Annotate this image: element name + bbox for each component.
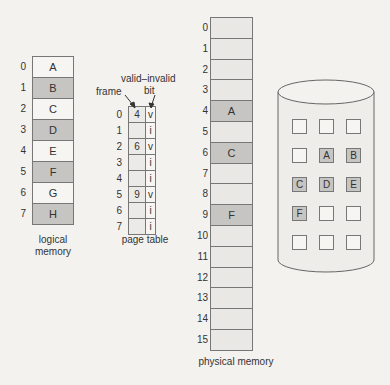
store-page-a: A	[319, 148, 334, 163]
arrows-and-cylinder	[0, 0, 390, 385]
store-page-c: C	[292, 177, 307, 192]
store-slot-empty	[319, 235, 334, 250]
store-page-f: F	[292, 206, 307, 221]
store-page-b: B	[346, 148, 361, 163]
store-slot-empty	[346, 119, 361, 134]
store-slot-empty	[346, 235, 361, 250]
store-slot-empty	[346, 206, 361, 221]
store-slot-empty	[292, 119, 307, 134]
store-slot-empty	[292, 235, 307, 250]
bit-arrow	[149, 95, 155, 108]
store-slot-empty	[319, 119, 334, 134]
store-page-e: E	[346, 177, 361, 192]
store-slot-empty	[292, 148, 307, 163]
frame-arrow	[125, 95, 135, 108]
store-slot-empty	[319, 206, 334, 221]
store-page-d: D	[319, 177, 334, 192]
